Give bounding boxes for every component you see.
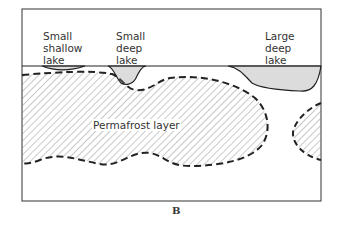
label-line: lake — [116, 54, 145, 66]
figure-label: B — [172, 205, 180, 216]
label-line: deep — [265, 42, 295, 54]
label-small-deep-lake: Small deep lake — [116, 30, 145, 66]
label-line: shallow — [43, 42, 82, 54]
label-line: deep — [116, 42, 145, 54]
label-line: Large — [265, 30, 295, 42]
permafrost-lobe-right — [293, 103, 321, 160]
label-small-shallow-lake: Small shallow lake — [43, 30, 82, 66]
small-shallow-lake — [42, 66, 85, 70]
label-line: Small — [116, 30, 145, 42]
label-permafrost-layer: Permafrost layer — [92, 119, 181, 131]
label-line: Small — [43, 30, 82, 42]
label-large-deep-lake: Large deep lake — [265, 30, 295, 66]
large-deep-lake — [228, 66, 321, 91]
label-line: lake — [43, 54, 82, 66]
label-line: lake — [265, 54, 295, 66]
